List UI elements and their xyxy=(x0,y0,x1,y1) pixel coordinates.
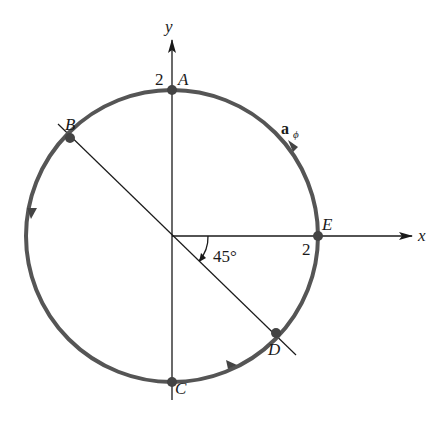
diagonal-line xyxy=(58,124,296,355)
x-tick-label: 2 xyxy=(302,240,311,259)
label-C: C xyxy=(175,379,187,398)
x-axis-label: x xyxy=(417,226,426,245)
y-tick-label: 2 xyxy=(155,70,164,89)
label-B: B xyxy=(65,115,76,134)
unit-vector-label: a xyxy=(281,120,289,137)
point-D xyxy=(271,328,281,338)
y-axis-label: y xyxy=(163,17,173,36)
unit-vector-subscript: ϕ xyxy=(293,128,299,140)
angle-arrow-icon xyxy=(199,253,206,262)
label-D: D xyxy=(267,340,281,359)
label-A: A xyxy=(177,70,189,89)
point-B xyxy=(65,133,75,143)
point-A xyxy=(167,85,177,95)
polar-diagram: y x 2 2 A B C D E 45° a ϕ xyxy=(0,0,442,423)
angle-label: 45° xyxy=(213,247,237,266)
label-E: E xyxy=(321,215,333,234)
